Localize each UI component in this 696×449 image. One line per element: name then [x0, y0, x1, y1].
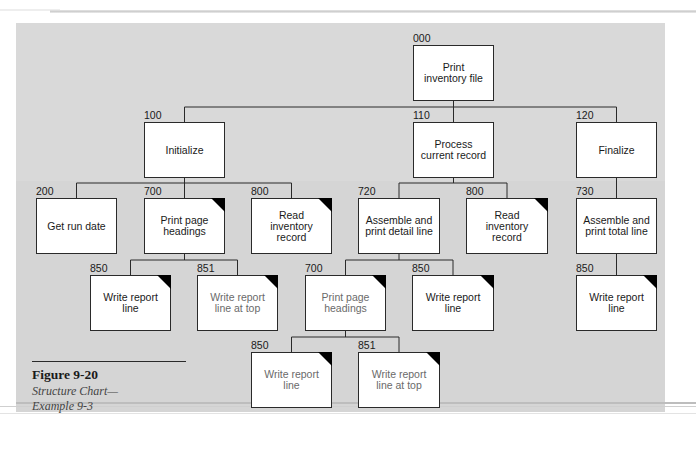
module-box: Write report line — [576, 275, 657, 331]
common-module-corner-icon — [211, 198, 225, 212]
common-module-corner-icon — [643, 275, 657, 289]
common-module-corner-icon — [318, 352, 332, 366]
module-box: Write report line — [251, 352, 332, 408]
module-name: Write report line — [252, 369, 331, 391]
module-box: Get run date — [36, 198, 117, 254]
module-number: 850 — [251, 340, 269, 350]
module-number: 850 — [412, 263, 430, 273]
common-module-corner-icon — [426, 352, 440, 366]
module-name: Finalize — [592, 145, 640, 156]
module-number: 110 — [413, 110, 430, 120]
module-box: Finalize — [576, 122, 657, 178]
module-name: Print page headings — [145, 215, 224, 237]
module-number: 850 — [576, 263, 594, 273]
common-module-corner-icon — [318, 198, 332, 212]
common-module-corner-icon — [372, 275, 386, 289]
module-box: Write report line — [90, 275, 171, 331]
module-name: Assemble and print detail line — [359, 215, 439, 237]
module-name: Print page headings — [306, 292, 385, 314]
caption-rule — [32, 361, 186, 362]
common-module-corner-icon — [480, 275, 494, 289]
module-box: Assemble and print total line — [576, 198, 657, 254]
module-number: 720 — [358, 186, 376, 196]
module-number: 700 — [144, 186, 162, 196]
module-box: Write report line — [412, 275, 494, 331]
module-number: 850 — [90, 263, 108, 273]
module-name: Process current record — [414, 139, 493, 161]
module-name: Write report line — [577, 292, 656, 314]
module-name: Read inventory record — [252, 210, 331, 243]
module-box: Print page headings — [305, 275, 386, 331]
module-number: 000 — [413, 33, 431, 43]
module-number: 730 — [576, 186, 594, 196]
module-name: Read inventory record — [467, 210, 547, 243]
module-number: 100 — [144, 110, 162, 120]
module-name: Write report line at top — [198, 292, 277, 314]
module-name: Write report line — [91, 292, 170, 314]
figure-number: Figure 9-20 — [32, 367, 98, 383]
module-number: 120 — [576, 110, 594, 120]
module-box: Write report line at top — [197, 275, 278, 331]
module-number: 800 — [251, 186, 269, 196]
module-number: 200 — [36, 186, 54, 196]
module-name: Assemble and print total line — [577, 215, 656, 237]
module-name: Write report line at top — [359, 369, 439, 391]
module-number: 851 — [358, 340, 376, 350]
module-box: Assemble and print detail line — [358, 198, 440, 254]
module-number: 700 — [305, 263, 323, 273]
common-module-corner-icon — [157, 275, 171, 289]
module-box: Write report line at top — [358, 352, 440, 408]
figure-caption-line-1: Structure Chart— — [32, 384, 118, 399]
module-name: Get run date — [41, 221, 111, 232]
figure-caption-line-2: Example 9-3 — [32, 399, 93, 414]
module-box: Initialize — [144, 122, 225, 178]
module-number: 800 — [466, 186, 484, 196]
module-box: Process current record — [413, 122, 494, 178]
module-box: Read inventory record — [251, 198, 332, 254]
module-number: 851 — [197, 263, 215, 273]
module-name: Print inventory file — [414, 62, 493, 84]
module-name: Write report line — [413, 292, 493, 314]
module-box: Read inventory record — [466, 198, 548, 254]
module-box: Print inventory file — [413, 45, 494, 101]
common-module-corner-icon — [534, 198, 548, 212]
module-box: Print page headings — [144, 198, 225, 254]
module-name: Initialize — [160, 145, 210, 156]
common-module-corner-icon — [264, 275, 278, 289]
